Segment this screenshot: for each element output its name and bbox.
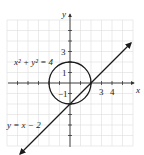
x-axis-label: x <box>135 85 140 95</box>
tick-label-y-3: 3 <box>61 47 66 57</box>
tick-label-x-3: 3 <box>99 87 104 97</box>
circle-equation-label: x² + y² = 4 <box>13 57 54 67</box>
tick-label-x-4: 4 <box>110 87 115 97</box>
tick-label-y-1: 1 <box>62 68 67 78</box>
tick-label-y-minus-1: −1 <box>58 89 68 99</box>
graph-figure: y x 3 4 3 1 −1 x² + y² = 4 y = x − 2 <box>0 0 144 155</box>
line-equation-label: y = x − 2 <box>6 120 41 130</box>
y-axis-label: y <box>61 9 66 19</box>
